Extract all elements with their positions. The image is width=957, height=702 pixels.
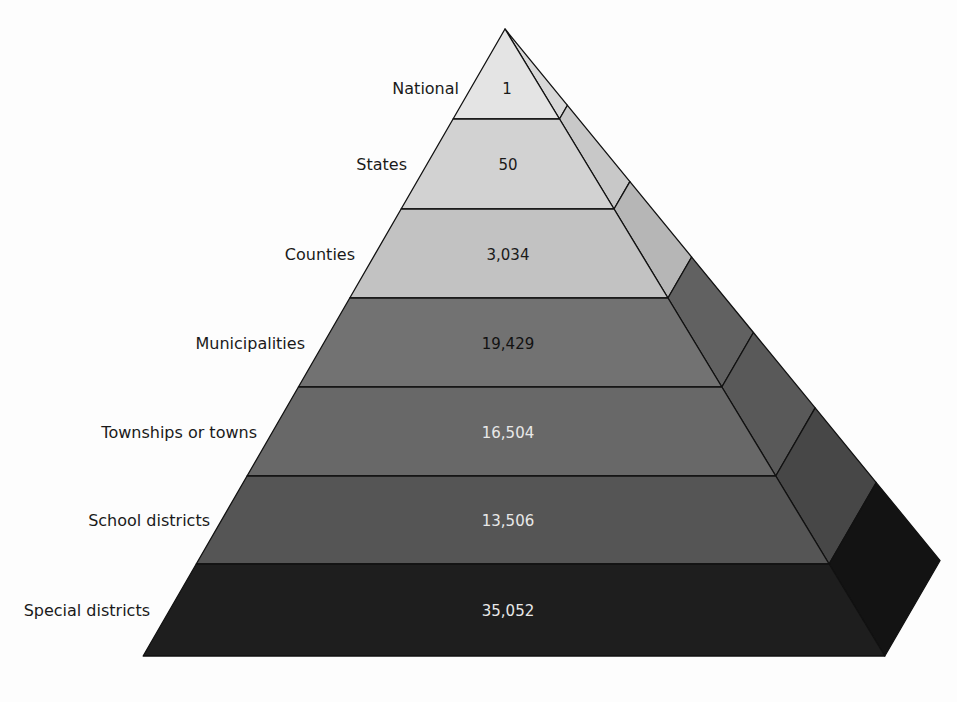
pyramid-band-national — [453, 29, 559, 119]
level-label: Counties — [285, 245, 355, 264]
level-count-value: 3,034 — [487, 246, 530, 264]
pyramid-graphic: National1States50Counties3,034Municipali… — [0, 0, 957, 702]
level-label: States — [356, 155, 407, 174]
level-count-value: 1 — [502, 80, 512, 98]
level-label: Townships or towns — [100, 423, 257, 442]
level-count-value: 50 — [498, 156, 517, 174]
level-label: Municipalities — [195, 334, 305, 353]
level-count-value: 16,504 — [482, 424, 535, 442]
level-count-value: 35,052 — [482, 602, 535, 620]
level-label: Special districts — [24, 601, 150, 620]
level-count-value: 19,429 — [482, 335, 535, 353]
level-label: School districts — [88, 511, 210, 530]
level-count-value: 13,506 — [482, 512, 535, 530]
government-units-pyramid: National1States50Counties3,034Municipali… — [0, 0, 957, 702]
level-label: National — [392, 79, 459, 98]
